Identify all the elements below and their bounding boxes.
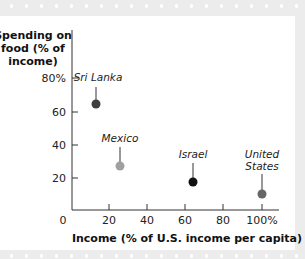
point-label: Sri Lanka — [74, 71, 123, 83]
point-label: States — [245, 160, 279, 172]
point-marker — [258, 190, 267, 199]
x-ticks: 0 20 40 60 80 100% — [60, 204, 278, 227]
y-tick-label: 40 — [52, 139, 66, 152]
x-tick-label: 80 — [216, 214, 230, 227]
point-label: United — [245, 148, 280, 160]
y-ticks: 20 40 60 80% — [42, 72, 78, 185]
data-point-mexico: Mexico — [102, 132, 139, 171]
x-tick-label: 60 — [178, 214, 192, 227]
x-axis-title: Income (% of U.S. income per capita) — [72, 232, 302, 245]
y-axis-title-line-3: income) — [8, 55, 58, 68]
point-label: Mexico — [102, 132, 139, 144]
y-tick-label: 60 — [52, 106, 66, 119]
x-tick-label: 100% — [246, 214, 277, 227]
x-tick-label: 0 — [60, 214, 67, 227]
scatter-chart: Spending on food (% of income) 20 40 60 … — [0, 0, 305, 259]
point-label: Israel — [179, 148, 208, 160]
point-marker — [116, 162, 125, 171]
y-tick-label: 20 — [52, 172, 66, 185]
point-marker — [92, 100, 101, 109]
y-axis-title-line-1: Spending on — [0, 29, 72, 42]
y-axis-title-line-2: food (% of — [1, 42, 65, 55]
x-tick-label: 20 — [102, 214, 116, 227]
data-point-israel: Israel — [179, 148, 208, 187]
point-marker — [189, 178, 198, 187]
y-tick-label: 80% — [42, 72, 66, 85]
data-point-sri-lanka: Sri Lanka — [74, 71, 123, 109]
data-point-united-states: United States — [245, 148, 280, 199]
x-tick-label: 40 — [140, 214, 154, 227]
